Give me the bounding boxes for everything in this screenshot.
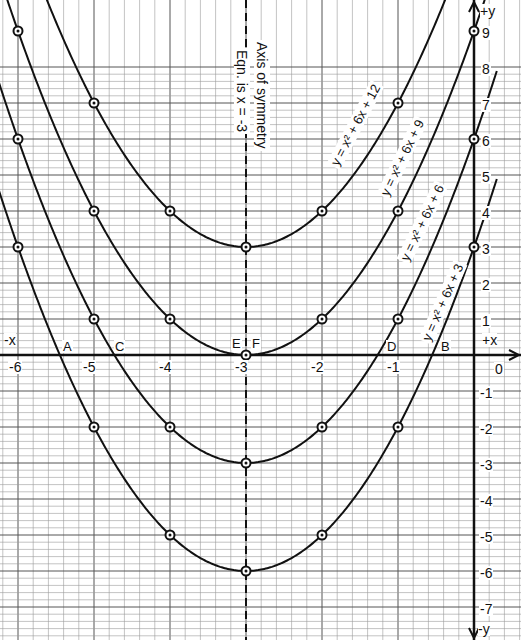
y-tick-label: 8 [481,62,491,76]
pos-x-label: +x [482,333,497,347]
x-tick-label: -3 [234,360,248,374]
y-tick-label: -2 [479,422,493,436]
point-label-f: F [251,337,261,350]
pos-y-label: +y [480,4,495,18]
x-tick-label: -2 [310,360,324,374]
point-label-b: B [440,340,451,353]
neg-x-label: -x [4,333,16,347]
point-label-d: D [386,340,397,353]
point-label-c: C [114,340,125,353]
x-tick-label: -5 [82,360,96,374]
y-tick-label: -4 [479,494,493,508]
y-tick-label: 4 [481,206,491,220]
y-tick-label: 7 [481,98,491,112]
neg-y-label: -y [478,622,490,636]
x-tick-label: 0 [494,362,504,376]
y-tick-label: -1 [479,386,493,400]
y-tick-label: 1 [481,314,491,328]
y-tick-label: -7 [479,602,493,616]
y-tick-label: -5 [479,530,493,544]
y-tick-label: -3 [479,458,493,472]
point-label-e: E [231,337,242,350]
y-tick-label: -6 [479,566,493,580]
y-tick-label: 6 [481,134,491,148]
axis-equation-label: Eqn. is x = -3 [234,48,250,134]
x-tick-label: -4 [158,360,172,374]
y-tick-label: 3 [481,242,491,256]
axis-of-symmetry-label: Axis of symmetry [254,40,270,151]
x-tick-label: -1 [386,360,400,374]
point-label-a: A [62,340,73,353]
y-tick-label: 5 [481,170,491,184]
y-tick-label: 9 [481,26,491,40]
y-tick-label: 2 [481,278,491,292]
x-tick-label: -6 [8,360,22,374]
